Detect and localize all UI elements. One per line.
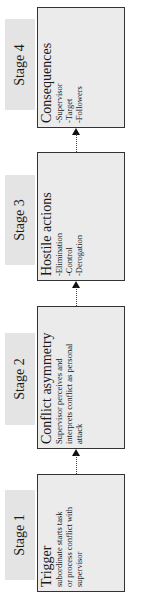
box-line: -Control <box>64 155 74 276</box>
stage-4-text: Stage 4 <box>12 44 28 86</box>
stage-4-label: Stage 4 <box>5 19 35 110</box>
box-line: -Derogation <box>74 155 84 276</box>
box-title: Conflict asymmetry <box>40 309 54 444</box>
trigger-box: Trigger subordinate starts task or proce… <box>37 474 125 592</box>
stage-1-label: Stage 1 <box>5 490 35 580</box>
box-line: interprets conflict as personal <box>64 309 74 444</box>
box-line: -Target <box>64 10 74 123</box>
box-line: supervisor <box>74 477 84 587</box>
hostile-actions-box: Hostile actions -Elimination -Control -D… <box>37 152 125 281</box>
stage-2-text: Stage 2 <box>12 358 28 400</box>
box-line: -Followers <box>74 10 84 123</box>
box-title: Hostile actions <box>40 155 54 276</box>
stage-1-text: Stage 1 <box>12 514 28 556</box>
arrow-2-to-3 <box>76 281 78 306</box>
arrow-shaft <box>76 287 77 306</box>
arrow-shaft <box>76 455 77 474</box>
box-line: Supervisor perceives and <box>54 309 64 444</box>
box-line: subordinate starts task <box>54 477 64 587</box>
consequences-box: Consequences -Supervisor -Target -Follow… <box>37 7 125 128</box>
box-title: Trigger <box>40 477 54 587</box>
stage-3-text: Stage 3 <box>12 199 28 241</box>
trigger-content: Trigger subordinate starts task or proce… <box>40 477 84 587</box>
conflict-asymmetry-content: Conflict asymmetry Supervisor perceives … <box>40 309 84 444</box>
box-line: -Supervisor <box>54 10 64 123</box>
box-line: attack <box>74 309 84 444</box>
box-title: Consequences <box>40 10 54 123</box>
box-line: or process conflict with <box>64 477 74 587</box>
arrow-3-to-4 <box>76 128 78 152</box>
stage-3-label: Stage 3 <box>5 175 35 265</box>
arrow-1-to-2 <box>76 449 78 474</box>
consequences-content: Consequences -Supervisor -Target -Follow… <box>40 10 84 123</box>
conflict-asymmetry-box: Conflict asymmetry Supervisor perceives … <box>37 306 125 449</box>
box-line: -Elimination <box>54 155 64 276</box>
stage-2-label: Stage 2 <box>5 333 35 425</box>
arrow-shaft <box>76 134 77 152</box>
hostile-actions-content: Hostile actions -Elimination -Control -D… <box>40 155 84 276</box>
